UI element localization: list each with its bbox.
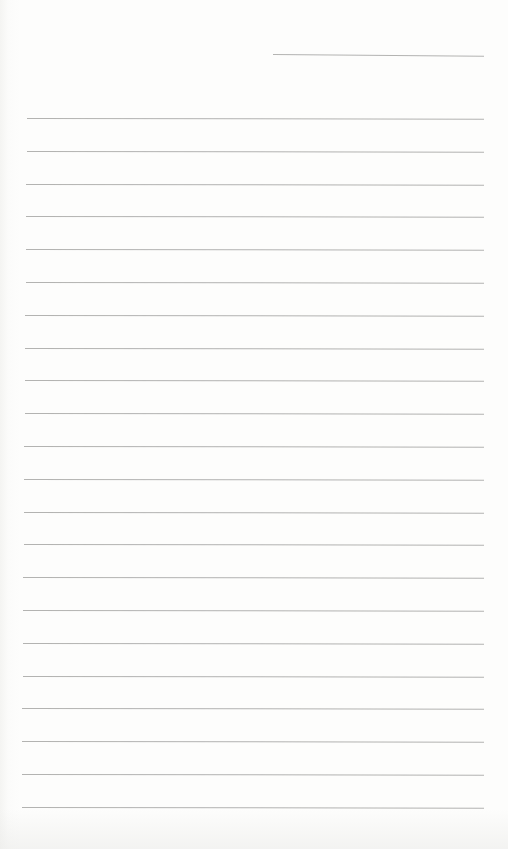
ruled-line[interactable] xyxy=(24,446,484,448)
ruled-line[interactable] xyxy=(26,216,484,218)
ruled-line[interactable] xyxy=(26,184,484,186)
ruled-line[interactable] xyxy=(24,512,484,514)
ruled-line[interactable] xyxy=(22,741,484,743)
lined-paper-sheet xyxy=(0,0,508,849)
ruled-line[interactable] xyxy=(24,544,484,546)
ruled-line[interactable] xyxy=(23,610,484,612)
ruled-line[interactable] xyxy=(24,479,484,481)
ruled-line[interactable] xyxy=(27,118,484,120)
ruled-line[interactable] xyxy=(23,643,484,645)
ruled-line[interactable] xyxy=(23,577,484,579)
ruled-line[interactable] xyxy=(26,249,484,251)
ruled-line[interactable] xyxy=(22,708,484,710)
ruled-line[interactable] xyxy=(25,315,484,317)
ruled-line[interactable] xyxy=(27,151,484,153)
header-write-line[interactable] xyxy=(273,54,484,57)
ruled-line[interactable] xyxy=(23,676,484,678)
ruled-line[interactable] xyxy=(25,348,484,350)
ruled-line[interactable] xyxy=(25,413,484,415)
ruled-line[interactable] xyxy=(26,282,484,284)
bottom-edge-shadow xyxy=(0,809,508,849)
ruled-line[interactable] xyxy=(22,774,484,776)
ruled-line[interactable] xyxy=(25,380,484,382)
